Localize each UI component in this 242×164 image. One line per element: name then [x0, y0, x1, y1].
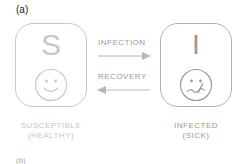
panel-b-label: (b)	[16, 156, 26, 164]
susceptible-node: S	[15, 23, 87, 107]
panel-a-label: (a)	[16, 4, 28, 15]
infected-caption-line2: (SICK)	[146, 131, 242, 141]
infection-arrow-icon	[96, 52, 152, 60]
infected-letter: I	[161, 28, 231, 62]
infected-caption: INFECTED (SICK)	[146, 121, 242, 141]
susceptible-caption: SUSCEPTIBLE (HEALTHY)	[0, 121, 102, 141]
susceptible-letter: S	[16, 28, 86, 62]
susceptible-caption-line2: (HEALTHY)	[0, 131, 102, 141]
recovery-arrow-icon	[96, 86, 152, 94]
infection-label: INFECTION	[98, 38, 146, 47]
happy-face-icon	[34, 68, 68, 102]
sick-face-icon	[179, 68, 213, 102]
infected-node: I	[160, 23, 232, 107]
susceptible-caption-line1: SUSCEPTIBLE	[0, 121, 102, 131]
recovery-label: RECOVERY	[98, 72, 147, 81]
infected-caption-line1: INFECTED	[146, 121, 242, 131]
